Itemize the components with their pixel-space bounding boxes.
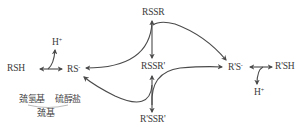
- rpssrp-to-rs-arrow: [84, 77, 152, 102]
- rssrp-to-rps-arrow: [152, 67, 222, 105]
- node-rssr-label: RSSR: [142, 7, 164, 17]
- charge-superscript: -: [241, 62, 243, 68]
- node-rssr-prime-label: RSSR': [141, 61, 165, 71]
- node-rpsh: R'SH: [275, 62, 294, 72]
- node-rpsh-label: R'SH: [275, 61, 294, 71]
- charge-superscript: +: [59, 37, 62, 43]
- node-rps-minus-label: R'S: [228, 62, 241, 72]
- label-thiol-group: 巯基: [37, 109, 54, 118]
- node-rs-minus-label: RS: [67, 64, 78, 74]
- label-thiolate: 硫醇盐: [55, 95, 81, 104]
- node-rsh-label: RSH: [7, 63, 25, 73]
- charge-superscript: +: [261, 87, 264, 93]
- node-h-right-label: H: [254, 87, 261, 97]
- node-rssr-prime: RSSR': [141, 62, 165, 72]
- node-rs-minus: RS-: [67, 64, 80, 75]
- label-sulfhydryl: 巯氢基: [19, 95, 45, 104]
- h-plus-left-branch-arrow: [48, 50, 55, 69]
- charge-superscript: -: [78, 64, 80, 70]
- node-h-left-label: H: [52, 37, 59, 47]
- h-plus-right-branch-arrow: [257, 67, 263, 84]
- node-rssr: RSSR: [142, 8, 164, 18]
- node-h-plus-right: H+: [254, 87, 264, 98]
- node-rsh: RSH: [7, 64, 25, 74]
- node-h-plus-left: H+: [52, 37, 62, 48]
- node-rps-minus: R'S-: [228, 62, 243, 73]
- rssr-to-rps-arrow: [153, 22, 226, 60]
- node-rpssrp: R'SSR': [140, 115, 165, 125]
- node-rpssrp-label: R'SSR': [140, 114, 165, 124]
